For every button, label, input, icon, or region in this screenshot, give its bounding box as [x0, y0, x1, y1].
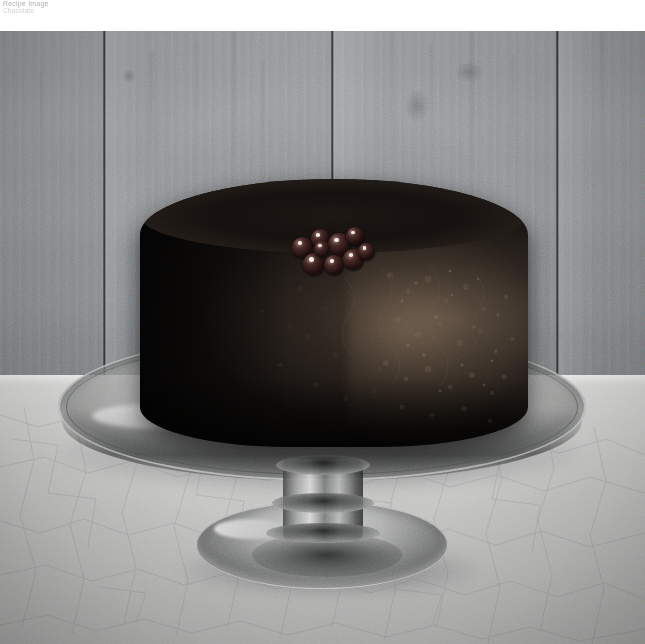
berry-cluster	[286, 227, 378, 283]
chocolate-cake	[140, 179, 528, 447]
food-photograph	[0, 31, 645, 644]
cake-bottom-shadow	[140, 377, 528, 447]
berry	[314, 241, 330, 257]
berry	[324, 255, 344, 275]
berry	[346, 227, 364, 245]
stem-ring	[272, 493, 374, 513]
header-subtitle: Chocolate	[3, 7, 34, 15]
header-caption-bar: Recipe Image Chocolate	[0, 0, 645, 31]
stem-ring	[276, 455, 370, 475]
berry	[358, 243, 375, 260]
stem-ring	[266, 523, 380, 543]
screenshot-root: Recipe Image Chocolate	[0, 0, 645, 644]
